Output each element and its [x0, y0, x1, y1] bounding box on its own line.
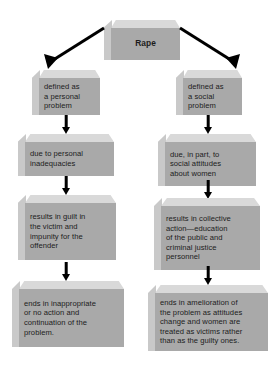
- node-label: results in collective action—education o…: [161, 214, 236, 262]
- node-label: results in guilt in the victim and impun…: [25, 212, 90, 250]
- box-top-face: [25, 134, 114, 142]
- arrow-head: [204, 278, 212, 285]
- node-left-2: due to personal inadequacies: [18, 134, 114, 176]
- node-left-1: defined as a personal problem: [32, 70, 100, 115]
- node-label: defined as a personal problem: [39, 82, 85, 111]
- connector-left-3-to-4: [60, 262, 72, 281]
- node-label: ends in inappropriate or no action and c…: [19, 299, 101, 337]
- node-right-2: due, in part, to social attitudes about …: [158, 134, 256, 186]
- box-front-face: results in collective action—education o…: [161, 206, 260, 270]
- box-top-face: [111, 20, 180, 28]
- box-front-face: defined as a social problem: [183, 78, 242, 115]
- node-right-1: defined as a social problem: [176, 70, 242, 115]
- connector-left-2-to-3: [60, 176, 72, 195]
- box-top-face: [155, 285, 268, 293]
- node-label: ends in amelioration of the problem as a…: [155, 298, 247, 346]
- connector-right-3-to-4: [202, 266, 214, 285]
- connector-root-to-left: [34, 26, 106, 72]
- node-root-rape: Rape: [104, 20, 180, 60]
- box-top-face: [165, 134, 256, 142]
- box-front-face: results in guilt in the victim and impun…: [25, 203, 116, 260]
- box-front-face: defined as a personal problem: [39, 78, 100, 115]
- box-top-face: [183, 70, 242, 78]
- box-front-face: due to personal inadequacies: [25, 142, 114, 176]
- arrow-head: [204, 127, 212, 134]
- arrow-head: [62, 274, 70, 281]
- node-label: Rape: [111, 39, 180, 49]
- box-front-face: Rape: [111, 28, 180, 60]
- node-right-3: results in collective action—education o…: [154, 198, 260, 270]
- arrow-head: [62, 188, 70, 195]
- connector-right-1-to-2: [202, 115, 214, 134]
- box-front-face: ends in amelioration of the problem as a…: [155, 293, 268, 351]
- arrow-head: [62, 127, 70, 134]
- connector-left-1-to-2: [60, 115, 72, 134]
- node-right-4: ends in amelioration of the problem as a…: [148, 285, 268, 351]
- node-label: defined as a social problem: [183, 82, 229, 111]
- connector-right-2-to-3: [202, 180, 214, 199]
- node-label: due to personal inadequacies: [25, 149, 88, 168]
- box-top-face: [25, 195, 116, 203]
- flowchart-diagram: Rape defined as a personal problem due: [0, 0, 272, 376]
- box-top-face: [19, 281, 124, 289]
- box-top-face: [39, 70, 100, 78]
- connector-root-to-right: [178, 26, 250, 72]
- node-left-4: ends in inappropriate or no action and c…: [12, 281, 124, 347]
- box-top-face: [161, 198, 260, 206]
- node-left-3: results in guilt in the victim and impun…: [18, 195, 116, 260]
- box-front-face: ends in inappropriate or no action and c…: [19, 289, 124, 347]
- node-label: due, in part, to social attitudes about …: [165, 150, 226, 179]
